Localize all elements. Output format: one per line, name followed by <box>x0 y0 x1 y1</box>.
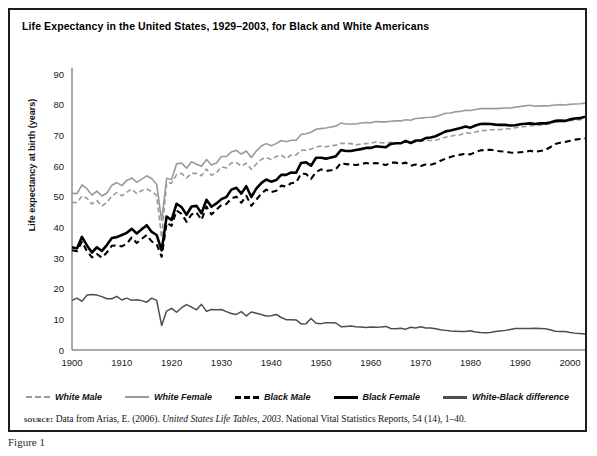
y-axis-ticks: 0102030405060708090 <box>53 69 64 356</box>
legend-item-white-female[interactable]: White Female <box>125 392 212 402</box>
figure-panel: Life Expectancy in the United States, 19… <box>8 8 587 432</box>
x-tick-1900: 1900 <box>61 357 82 368</box>
x-tick-1960: 1960 <box>360 357 381 368</box>
legend-label-black-female: Black Female <box>363 392 421 402</box>
series-line-black-male <box>72 138 585 257</box>
y-tick-20: 20 <box>53 283 64 294</box>
x-tick-1930: 1930 <box>211 357 232 368</box>
y-tick-50: 50 <box>53 191 64 202</box>
y-tick-60: 60 <box>53 161 64 172</box>
series-line-white-black-difference <box>72 294 585 334</box>
source-note: source: Data from Arias, E. (2006). Unit… <box>24 414 575 424</box>
y-tick-30: 30 <box>53 253 64 264</box>
y-tick-40: 40 <box>53 222 64 233</box>
legend-item-difference[interactable]: White-Black difference <box>443 392 569 402</box>
figure-caption: Figure 1 <box>8 436 45 448</box>
source-label: source: <box>24 414 53 424</box>
series-line-white-male <box>72 119 585 238</box>
x-tick-1940: 1940 <box>261 357 282 368</box>
legend-item-black-female[interactable]: Black Female <box>334 392 421 402</box>
legend-label-white-male: White Male <box>55 392 102 402</box>
legend-swatch-black-male <box>235 396 259 399</box>
y-tick-0: 0 <box>59 345 64 356</box>
data-series-group <box>72 103 585 334</box>
legend-swatch-white-female <box>125 396 149 398</box>
y-tick-70: 70 <box>53 130 64 141</box>
x-tick-1990: 1990 <box>510 357 531 368</box>
series-line-white-female <box>72 103 585 220</box>
line-chart: 0102030405060708090 19001910192019301940… <box>10 10 589 390</box>
series-line-black-female <box>72 117 585 253</box>
x-tick-2000: 2000 <box>559 357 580 368</box>
x-tick-1910: 1910 <box>111 357 132 368</box>
legend-swatch-black-female <box>334 396 358 399</box>
source-title-italic: United States Life Tables, 2003 <box>162 414 281 424</box>
chart-plot-area: 0102030405060708090 19001910192019301940… <box>10 10 589 434</box>
x-tick-1980: 1980 <box>460 357 481 368</box>
y-tick-10: 10 <box>53 314 64 325</box>
source-text-before: Data from Arias, E. (2006). <box>53 414 162 424</box>
source-text-after: . National Vital Statistics Reports, 54 … <box>281 414 466 424</box>
legend-swatch-difference <box>443 396 467 399</box>
y-tick-80: 80 <box>53 99 64 110</box>
x-tick-1920: 1920 <box>161 357 182 368</box>
legend-item-black-male[interactable]: Black Male <box>235 392 311 402</box>
x-tick-1970: 1970 <box>410 357 431 368</box>
legend-label-black-male: Black Male <box>264 392 311 402</box>
legend-swatch-white-male <box>26 396 50 398</box>
x-tick-1950: 1950 <box>310 357 331 368</box>
y-tick-90: 90 <box>53 69 64 80</box>
legend-label-white-female: White Female <box>154 392 212 402</box>
chart-legend: White Male White Female Black Male Black… <box>10 386 585 408</box>
legend-item-white-male[interactable]: White Male <box>26 392 102 402</box>
legend-label-difference: White-Black difference <box>472 392 569 402</box>
x-axis-ticks: 1900191019201930194019501960197019801990… <box>61 357 580 368</box>
